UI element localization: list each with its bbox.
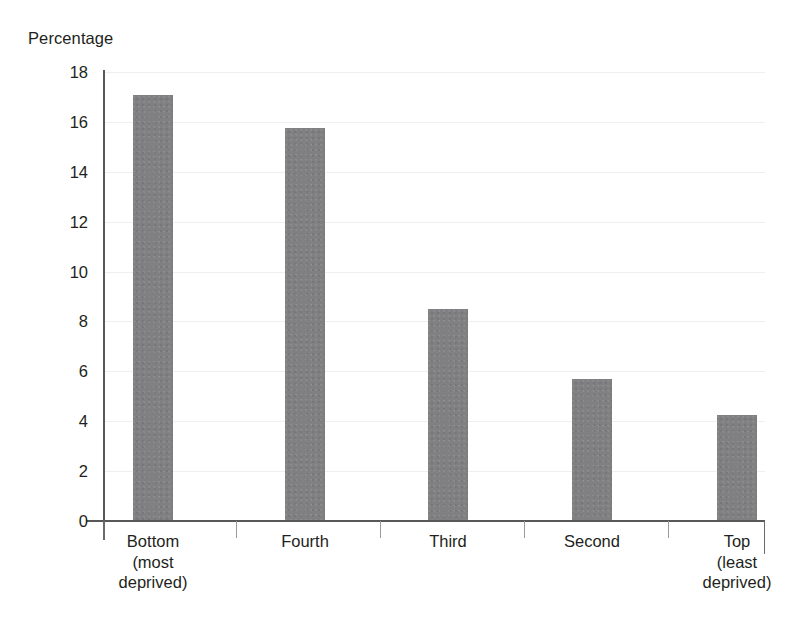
- x-category-line: Top: [662, 531, 792, 552]
- y-tick-label-14: 14: [44, 162, 88, 181]
- bar-third: [428, 309, 468, 521]
- y-tick-label-2: 2: [44, 462, 88, 481]
- bar-bottom-most-deprived: [133, 95, 173, 522]
- y-tick-label-10: 10: [44, 262, 88, 281]
- bar-top-least-deprived: [717, 415, 757, 521]
- y-tick-label-8: 8: [44, 312, 88, 331]
- bar-chart: Percentage 18 16 14 12 10 8 6 4 2 0 Bott…: [0, 0, 792, 638]
- x-category-line: Bottom: [78, 531, 228, 552]
- x-category-line: Second: [517, 531, 667, 552]
- y-tick-label-16: 16: [44, 112, 88, 131]
- x-category-label-third: Third: [373, 531, 523, 552]
- x-category-label-bottom-most-deprived: Bottom (most deprived): [78, 531, 228, 593]
- x-category-label-second: Second: [517, 531, 667, 552]
- x-category-line: deprived): [662, 572, 792, 593]
- gridline-16: [104, 122, 765, 123]
- y-tick-label-6: 6: [44, 362, 88, 381]
- bar-fourth: [285, 128, 325, 521]
- plot-area: [104, 72, 765, 521]
- x-category-line: Fourth: [230, 531, 380, 552]
- gridline-12: [104, 222, 765, 223]
- y-tick-label-12: 12: [44, 212, 88, 231]
- x-category-line: deprived): [78, 572, 228, 593]
- x-category-line: (least: [662, 552, 792, 573]
- x-axis-line: [86, 520, 765, 522]
- x-category-label-top-least-deprived: Top (least deprived): [662, 531, 792, 593]
- y-axis-title: Percentage: [28, 29, 113, 48]
- y-tick-label-0: 0: [44, 512, 88, 531]
- y-tick-label-18: 18: [44, 63, 88, 82]
- y-tick-label-4: 4: [44, 412, 88, 431]
- x-category-line: (most: [78, 552, 228, 573]
- gridline-18: [104, 72, 765, 73]
- x-category-label-fourth: Fourth: [230, 531, 380, 552]
- gridline-10: [104, 272, 765, 273]
- gridline-14: [104, 172, 765, 173]
- x-category-line: Third: [373, 531, 523, 552]
- y-axis-line: [103, 70, 105, 523]
- bar-second: [572, 379, 612, 521]
